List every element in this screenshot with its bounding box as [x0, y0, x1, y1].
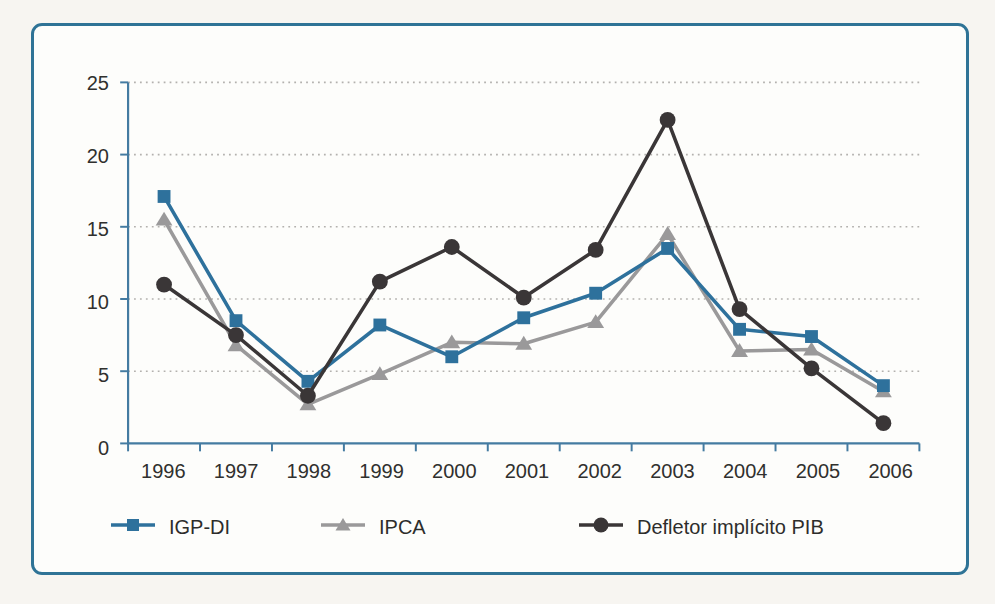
x-axis-label: 1999: [346, 459, 418, 483]
square-marker-icon: [805, 330, 818, 343]
legend-item-ipca: IPCA: [320, 512, 426, 542]
square-marker-icon: [230, 314, 243, 327]
circle-marker-icon: [444, 239, 460, 255]
x-axis-label: 2005: [782, 459, 854, 483]
x-axis-label: 2006: [855, 459, 927, 483]
x-axis-label: 2003: [636, 459, 708, 483]
y-axis-label: 15: [55, 217, 109, 241]
x-axis-label: 1997: [200, 459, 272, 483]
circle-marker-icon: [516, 290, 532, 306]
legend-label: Defletor implícito PIB: [637, 516, 824, 539]
square-marker-icon: [158, 190, 171, 203]
square-marker-icon: [445, 350, 458, 363]
triangle-marker-icon: [659, 226, 676, 240]
ipca-triangle-marker-icon: [320, 515, 366, 539]
y-axis-label: 25: [55, 71, 109, 95]
square-marker-icon: [877, 379, 890, 392]
legend: IGP-DI IPCA Defletor implícito PIB: [34, 512, 966, 542]
circle-marker-icon: [588, 242, 604, 258]
figure-panel: 0510152025 19961997199819992000200120022…: [31, 23, 969, 575]
circle-marker-icon: [804, 360, 820, 376]
triangle-marker-icon: [156, 212, 173, 226]
legend-label: IGP-DI: [169, 516, 230, 539]
circle-marker-icon: [372, 274, 388, 290]
circle-marker-icon: [228, 327, 244, 343]
y-axis-label: 0: [55, 436, 109, 460]
circle-marker-icon: [732, 301, 748, 317]
line-chart: [34, 26, 966, 572]
circle-marker-icon: [660, 112, 676, 128]
square-marker-icon: [517, 311, 530, 324]
y-axis-label: 20: [55, 144, 109, 168]
x-axis-label: 2001: [491, 459, 563, 483]
x-axis-label: 2000: [418, 459, 490, 483]
series-line-defletor-impl-cito-pib: [164, 120, 883, 423]
legend-item-igp-di: IGP-DI: [110, 512, 230, 542]
igp-di-square-marker-icon: [110, 515, 156, 539]
x-axis-label: 1998: [273, 459, 345, 483]
x-axis-label: 1996: [127, 459, 199, 483]
square-marker-icon: [373, 319, 386, 332]
y-axis-label: 5: [55, 363, 109, 387]
legend-item-defletor: Defletor implícito PIB: [578, 512, 824, 542]
circle-marker-icon: [300, 388, 316, 404]
circle-marker-icon: [876, 415, 892, 431]
circle-marker-icon: [156, 277, 172, 293]
x-axis-label: 2004: [709, 459, 781, 483]
y-axis-label: 10: [55, 290, 109, 314]
x-axis-label: 2002: [564, 459, 636, 483]
square-marker-icon: [661, 242, 674, 255]
defletor-circle-marker-icon: [578, 515, 624, 539]
square-marker-icon: [733, 323, 746, 336]
legend-label: IPCA: [379, 516, 426, 539]
square-marker-icon: [589, 287, 602, 300]
